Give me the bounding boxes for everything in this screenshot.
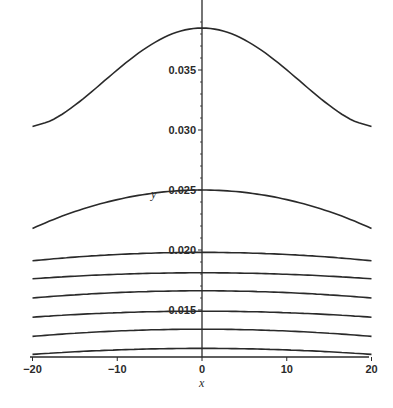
y-tick-label: 0.020	[168, 244, 196, 256]
y-tick-label: 0.015	[168, 304, 196, 316]
x-tick-label: 0	[199, 363, 205, 375]
x-tick-label: −10	[108, 363, 127, 375]
x-tick-label: 20	[365, 363, 377, 375]
y-axis-label: y	[150, 187, 157, 201]
y-ticks: 0.0150.0200.0250.0300.035	[168, 22, 202, 316]
x-tick-label: 10	[281, 363, 293, 375]
y-tick-label: 0.030	[168, 124, 196, 136]
x-tick-label: −20	[23, 363, 42, 375]
y-tick-label: 0.025	[168, 184, 196, 196]
y-tick-label: 0.035	[168, 64, 196, 76]
axes: 0.0150.0200.0250.0300.035 −20−1001020 x …	[23, 0, 377, 390]
line-chart: 0.0150.0200.0250.0300.035 −20−1001020 x …	[0, 0, 393, 408]
x-axis-label: x	[198, 376, 205, 390]
x-ticks: −20−1001020	[23, 357, 377, 375]
